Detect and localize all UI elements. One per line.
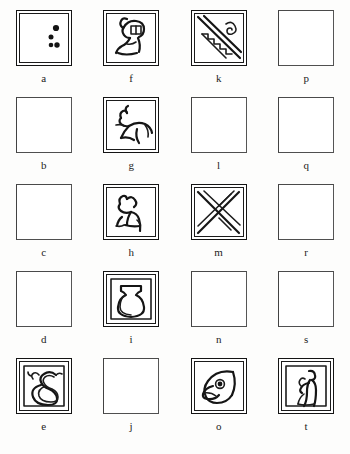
glyph-cell-p[interactable]: p xyxy=(263,10,350,97)
glyph-cell-r[interactable]: r xyxy=(263,184,350,271)
glyph-frame-f[interactable] xyxy=(103,10,159,66)
glyph-cell-t[interactable]: t xyxy=(263,358,350,445)
glyph-frame-b[interactable] xyxy=(16,97,72,153)
glyph-label-t: t xyxy=(305,421,308,432)
glyph-label-c: c xyxy=(41,247,46,258)
glyph-label-q: q xyxy=(303,160,309,171)
glyph-label-b: b xyxy=(41,160,47,171)
glyph-cell-f[interactable]: f xyxy=(88,10,176,97)
glyph-label-g: g xyxy=(128,160,134,171)
glyph-label-j: j xyxy=(130,421,133,432)
glyph-cell-k[interactable]: k xyxy=(175,10,263,97)
glyph-cell-d[interactable]: d xyxy=(0,271,88,358)
glyph-frame-q[interactable] xyxy=(278,97,334,153)
glyph-frame-p[interactable] xyxy=(278,10,334,66)
glyph-inner-a xyxy=(19,13,69,63)
glyph-label-a: a xyxy=(41,73,46,84)
glyph-cell-o[interactable]: o xyxy=(175,358,263,445)
seated-dog-glyph xyxy=(107,188,155,236)
glyph-label-e: e xyxy=(41,421,46,432)
leaping-animal-glyph xyxy=(107,101,155,149)
stairway-spiral-glyph xyxy=(195,14,243,62)
glyph-frame-k[interactable] xyxy=(191,10,247,66)
glyph-frame-e[interactable] xyxy=(16,358,72,414)
glyph-label-l: l xyxy=(217,160,220,171)
bird-head-glyph xyxy=(195,362,243,410)
glyph-cell-c[interactable]: c xyxy=(0,184,88,271)
glyph-label-f: f xyxy=(129,73,133,84)
glyph-label-k: k xyxy=(216,73,222,84)
glyph-label-o: o xyxy=(216,421,222,432)
glyph-cell-n[interactable]: n xyxy=(175,271,263,358)
glyph-inner-t xyxy=(281,361,331,411)
glyph-grid: a f xyxy=(0,0,350,454)
glyph-cell-g[interactable]: g xyxy=(88,97,176,184)
glyph-cell-s[interactable]: s xyxy=(263,271,350,358)
crossed-bands-glyph xyxy=(195,188,243,236)
glyph-label-m: m xyxy=(214,247,223,258)
glyph-inner-m xyxy=(194,187,244,237)
glyph-frame-r[interactable] xyxy=(278,184,334,240)
glyph-frame-i[interactable] xyxy=(103,271,159,327)
glyph-frame-l[interactable] xyxy=(191,97,247,153)
glyph-inner-h xyxy=(106,187,156,237)
glyph-plate: a f xyxy=(0,0,350,454)
coiled-snake-glyph xyxy=(20,362,68,410)
vessel-jar-glyph xyxy=(107,275,155,323)
glyph-cell-h[interactable]: h xyxy=(88,184,176,271)
glyph-frame-h[interactable] xyxy=(103,184,159,240)
dots-three-vertical-glyph xyxy=(20,14,68,62)
standing-figure-glyph xyxy=(282,362,330,410)
glyph-label-s: s xyxy=(304,334,308,345)
glyph-cell-q[interactable]: q xyxy=(263,97,350,184)
glyph-cell-b[interactable]: b xyxy=(0,97,88,184)
glyph-cell-m[interactable]: m xyxy=(175,184,263,271)
glyph-cell-j[interactable]: j xyxy=(88,358,176,445)
glyph-cell-i[interactable]: i xyxy=(88,271,176,358)
glyph-frame-t[interactable] xyxy=(278,358,334,414)
glyph-inner-o xyxy=(194,361,244,411)
glyph-label-d: d xyxy=(41,334,47,345)
glyph-label-n: n xyxy=(216,334,222,345)
glyph-frame-d[interactable] xyxy=(16,271,72,327)
glyph-label-i: i xyxy=(130,334,133,345)
glyph-label-p: p xyxy=(303,73,309,84)
glyph-label-h: h xyxy=(128,247,134,258)
glyph-frame-j[interactable] xyxy=(103,358,159,414)
glyph-cell-l[interactable]: l xyxy=(175,97,263,184)
glyph-inner-e xyxy=(19,361,69,411)
glyph-frame-a[interactable] xyxy=(16,10,72,66)
glyph-frame-c[interactable] xyxy=(16,184,72,240)
glyph-inner-i xyxy=(106,274,156,324)
glyph-cell-e[interactable]: e xyxy=(0,358,88,445)
glyph-frame-n[interactable] xyxy=(191,271,247,327)
glyph-inner-f xyxy=(106,13,156,63)
seated-figure-glyph xyxy=(107,14,155,62)
glyph-inner-g xyxy=(106,100,156,150)
glyph-frame-m[interactable] xyxy=(191,184,247,240)
glyph-inner-k xyxy=(194,13,244,63)
glyph-label-r: r xyxy=(304,247,308,258)
glyph-cell-a[interactable]: a xyxy=(0,10,88,97)
glyph-frame-s[interactable] xyxy=(278,271,334,327)
glyph-frame-o[interactable] xyxy=(191,358,247,414)
glyph-frame-g[interactable] xyxy=(103,97,159,153)
